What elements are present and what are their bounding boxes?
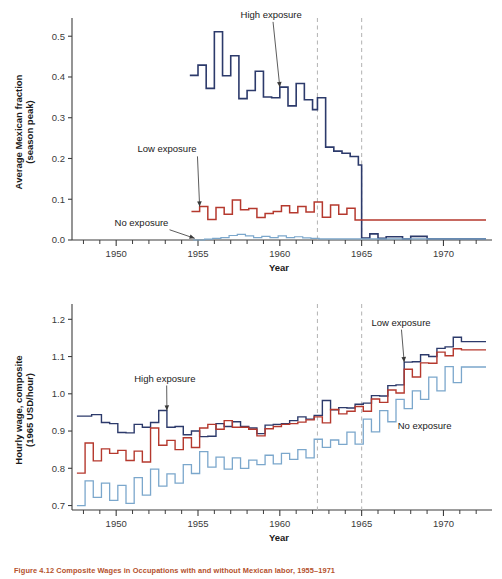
y-axis-title-line2: (1965 USD/hour) — [24, 373, 35, 447]
y-tick-label: 0.3 — [52, 112, 65, 123]
y-axis-title-line1: Hourly wage, composite — [13, 355, 24, 464]
x-tick-label: 1950 — [106, 248, 127, 259]
x-axis-title: Year — [269, 262, 289, 273]
x-tick-label: 1965 — [351, 248, 372, 259]
figure-container: 0.00.10.20.30.40.519501955196019651970Ye… — [0, 0, 502, 579]
x-tick-label: 1960 — [269, 248, 290, 259]
series-line-no-exposure — [77, 367, 486, 506]
y-tick-label: 1.1 — [52, 351, 65, 362]
series-line-no-exposure — [193, 234, 486, 240]
y-tick-label: 0.0 — [52, 234, 65, 245]
x-tick-label: 1955 — [187, 518, 208, 529]
annotation-arrowhead — [401, 357, 406, 362]
x-tick-label: 1970 — [433, 518, 454, 529]
x-axis-title: Year — [269, 532, 289, 543]
y-axis-title: Hourly wage, composite(1965 USD/hour) — [13, 355, 35, 464]
x-tick-label: 1970 — [433, 248, 454, 259]
y-tick-label: 0.7 — [52, 500, 65, 511]
figure-caption: Figure 4.12 Composite Wages in Occupatio… — [14, 566, 494, 575]
x-tick-label: 1950 — [106, 518, 127, 529]
y-tick-label: 0.5 — [52, 31, 65, 42]
annotation-label: High exposure — [241, 9, 302, 20]
y-tick-label: 0.2 — [52, 153, 65, 164]
annotation-arrowhead — [165, 405, 170, 410]
series-line-low-exposure — [191, 200, 486, 220]
annotation-label: Low exposure — [371, 317, 430, 328]
x-tick-label: 1960 — [269, 518, 290, 529]
y-tick-label: 0.1 — [52, 194, 65, 205]
chart-svg-bottom: 0.70.80.91.01.11.219501955196019651970Ye… — [0, 288, 502, 550]
x-tick-label: 1955 — [187, 248, 208, 259]
y-axis-title: Average Mexican fraction(season peak) — [13, 74, 35, 189]
annotation-label: No exposure — [115, 217, 169, 228]
annotation-label: High exposure — [134, 373, 195, 384]
annotation-leader — [273, 22, 280, 87]
annotation-arrowhead — [189, 235, 195, 239]
chart-panel-top: 0.00.10.20.30.40.519501955196019651970Ye… — [0, 0, 502, 288]
annotation-leader — [197, 156, 199, 206]
chart-panel-bottom: 0.70.80.91.01.11.219501955196019651970Ye… — [0, 288, 502, 550]
chart-svg-top: 0.00.10.20.30.40.519501955196019651970Ye… — [0, 0, 502, 288]
annotation-label: Low exposure — [137, 143, 196, 154]
y-axis-title-line2: (season peak) — [24, 100, 35, 163]
series-line-high-exposure — [190, 32, 486, 239]
y-tick-label: 1.0 — [52, 388, 65, 399]
y-tick-label: 0.9 — [52, 425, 65, 436]
annotation-label: No exposure — [398, 420, 452, 431]
annotation-arrowhead — [197, 201, 202, 206]
y-tick-label: 0.8 — [52, 463, 65, 474]
y-tick-label: 0.4 — [52, 71, 65, 82]
y-axis-title-line1: Average Mexican fraction — [13, 74, 24, 189]
x-tick-label: 1965 — [351, 518, 372, 529]
y-tick-label: 1.2 — [52, 314, 65, 325]
